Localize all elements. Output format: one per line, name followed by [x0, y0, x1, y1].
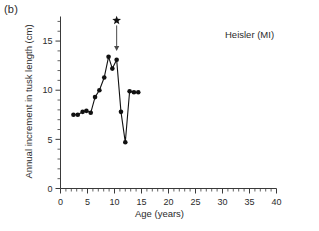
- star-icon: [112, 16, 121, 24]
- x-tick-label: 35: [244, 197, 254, 207]
- data-point: [93, 95, 98, 100]
- arrow-down-icon: [114, 46, 119, 51]
- x-tick-label: 20: [163, 197, 173, 207]
- x-tick-label: 0: [58, 197, 63, 207]
- data-point: [88, 111, 93, 116]
- data-point: [127, 89, 132, 94]
- x-tick-label: 15: [136, 197, 146, 207]
- y-tick-label: 5: [47, 135, 52, 145]
- data-point: [97, 88, 102, 93]
- data-point: [136, 90, 141, 95]
- data-point: [110, 66, 115, 71]
- x-tick-label: 25: [190, 197, 200, 207]
- series-line: [73, 57, 138, 143]
- y-tick-label: 15: [42, 36, 52, 46]
- data-point: [106, 54, 111, 59]
- x-axis: 0510152025303540: [58, 189, 282, 207]
- data-point: [119, 110, 124, 115]
- x-tick-label: 10: [109, 197, 119, 207]
- figure-panel: (b) Heisler (MI) Annual increment in tus…: [0, 0, 319, 231]
- data-point: [84, 109, 89, 114]
- x-tick-label: 30: [217, 197, 227, 207]
- data-series: [71, 54, 140, 144]
- y-axis: 051015: [42, 17, 60, 194]
- data-point: [71, 112, 76, 117]
- x-tick-label: 5: [85, 197, 90, 207]
- data-point: [114, 57, 119, 62]
- data-point: [123, 140, 128, 145]
- y-tick-label: 0: [47, 184, 52, 194]
- data-point: [132, 90, 137, 95]
- data-point: [75, 112, 80, 117]
- annotation-group: [112, 16, 121, 51]
- plot-area: 051015 0510152025303540: [0, 0, 319, 231]
- x-tick-label: 40: [271, 197, 281, 207]
- data-point: [102, 75, 107, 80]
- y-tick-label: 10: [42, 85, 52, 95]
